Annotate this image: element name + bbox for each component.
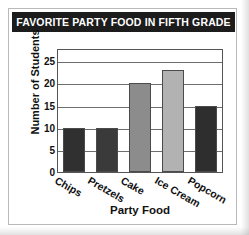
bar [162,70,184,172]
plot-area [57,49,223,173]
bar [195,106,217,172]
bar-series [58,50,222,172]
y-tick-label: 10 [33,124,55,134]
page-shadow-bottom [0,227,249,235]
chart-title: FAVORITE PARTY FOOD IN FIFTH GRADE [16,17,231,28]
y-tick-label: 5 [33,146,55,156]
bar [63,128,85,172]
page-shadow-right [241,0,249,235]
y-axis-tick-labels: 0510152025 [33,49,55,173]
y-tick-label: 20 [33,79,55,89]
x-tick-label: Chips [53,174,84,199]
y-tick-label: 0 [33,168,55,178]
chart-card: FAVORITE PARTY FOOD IN FIFTH GRADE Numbe… [8,8,237,225]
x-axis-title: Party Food [57,204,223,216]
bar [129,83,151,172]
chart-body: Number of Students 0510152025 ChipsPretz… [9,32,236,224]
bar [96,128,118,172]
chart-title-banner: FAVORITE PARTY FOOD IN FIFTH GRADE [12,12,235,32]
y-tick-label: 15 [33,102,55,112]
y-tick-label: 25 [33,57,55,67]
